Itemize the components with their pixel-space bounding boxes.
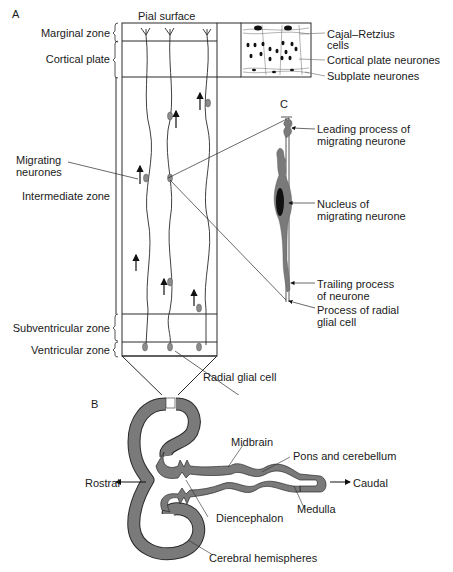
leading-process-label-2: migrating neurone [317,135,406,147]
midbrain-label: Midbrain [231,436,273,448]
nucleus-label-1: Nucleus of [317,198,369,210]
zone-label-intermediate: Intermediate zone [0,190,110,202]
radial-glial-process-label-2: glial cell [317,316,356,328]
zone-label-subventricular: Subventricular zone [0,322,110,334]
leading-process-label-1: Leading process of [317,123,410,135]
trailing-process-label-2: of neurone [317,290,370,302]
diencephalon-label: Diencephalon [216,512,283,524]
cerebral-hemispheres-label: Cerebral hemispheres [209,552,317,564]
zone-label-marginal: Marginal zone [0,27,110,39]
cortical-plate-neurones-label: Cortical plate neurones [327,54,440,66]
radial-glial-cell-label: Radial glial cell [203,371,276,383]
subplate-neurones-label: Subplate neurones [327,70,419,82]
medulla-label: Medulla [297,503,336,515]
migrating-neurones-label-1: Migrating [16,154,61,166]
zone-label-cortical-plate: Cortical plate [0,53,110,65]
caudal-label: Caudal [353,477,388,489]
radial-glial-process-label-1: Process of radial [317,304,399,316]
zone-label-ventricular: Ventricular zone [0,344,110,356]
trailing-process-label-1: Trailing process [317,278,394,290]
panel-a-label: A [12,8,19,20]
nucleus-label-2: migrating neurone [317,210,406,222]
pial-surface-label: Pial surface [138,10,195,22]
pons-cerebellum-label: Pons and cerebellum [293,450,396,462]
panel-c-label: C [280,98,288,110]
panel-b-label: B [91,398,98,410]
migrating-neurones-label-2: neurones [16,166,62,178]
cajal-retzius-label-2: cells [327,39,349,51]
rostral-label: Rostral [85,477,120,489]
